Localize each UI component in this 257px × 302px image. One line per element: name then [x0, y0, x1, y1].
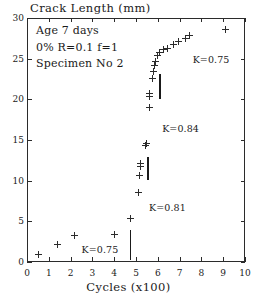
x-tick-label: 0 [17, 268, 37, 278]
x-tick [92, 257, 93, 262]
k-value-label: K=0.81 [149, 202, 186, 213]
y-tick [27, 140, 32, 141]
data-point-marker [54, 241, 61, 248]
y-tick-label: 25 [2, 54, 24, 64]
data-point-marker [149, 75, 156, 82]
y-tick-right [241, 221, 245, 222]
y-tick-label: 5 [2, 216, 24, 226]
x-tick-label: 6 [148, 268, 168, 278]
data-point-marker [35, 251, 42, 258]
data-point-marker [127, 215, 134, 222]
annotation-line-conditions: 0% R=0.1 f=1 [36, 40, 124, 57]
x-tick [158, 257, 159, 262]
x-tick [201, 257, 202, 262]
x-tick-label: 5 [126, 268, 146, 278]
y-tick [27, 262, 32, 263]
data-point-marker [136, 172, 143, 179]
x-tick [245, 257, 246, 262]
k-value-label: K=0.75 [193, 54, 230, 65]
vertical-marker-bar [159, 74, 160, 98]
y-tick [27, 221, 32, 222]
y-tick [27, 181, 32, 182]
x-tick [71, 257, 72, 262]
y-tick-label: 30 [2, 13, 24, 23]
x-tick-top [245, 18, 246, 22]
x-tick-label: 1 [39, 268, 59, 278]
k-value-label: K=0.84 [162, 123, 199, 134]
data-point-marker [146, 90, 153, 97]
x-tick-label: 9 [213, 268, 233, 278]
k-value-label: K=0.75 [82, 244, 119, 255]
y-tick [27, 99, 32, 100]
x-tick-label: 7 [170, 268, 190, 278]
x-tick-top [92, 18, 93, 22]
chart-figure: Crack Length (mm) K=0.75K=0.81K=0.84K=0.… [0, 0, 257, 302]
annotation-line-specimen: Specimen No 2 [36, 56, 124, 73]
y-tick-label: 10 [2, 176, 24, 186]
y-tick-right [241, 99, 245, 100]
y-tick-right [241, 18, 245, 19]
y-tick-label: 0 [2, 257, 24, 267]
y-tick [27, 59, 32, 60]
y-tick-right [241, 140, 245, 141]
x-axis-label: Cycles (x100) [0, 280, 257, 294]
x-tick-top [201, 18, 202, 22]
y-tick-right [241, 59, 245, 60]
y-tick-label: 15 [2, 135, 24, 145]
data-point-marker [111, 231, 118, 238]
x-tick-top [158, 18, 159, 22]
x-tick-top [49, 18, 50, 22]
x-tick-top [71, 18, 72, 22]
x-tick-top [223, 18, 224, 22]
x-tick-label: 8 [191, 268, 211, 278]
data-point-marker [146, 104, 153, 111]
chart-title: Crack Length (mm) [30, 1, 151, 15]
data-point-marker [135, 189, 142, 196]
vertical-marker-bar [130, 230, 131, 260]
data-point-marker [71, 232, 78, 239]
x-tick [223, 257, 224, 262]
x-tick-top [136, 18, 137, 22]
y-tick [27, 18, 32, 19]
x-tick [180, 257, 181, 262]
x-tick-top [114, 18, 115, 22]
x-tick-label: 4 [104, 268, 124, 278]
data-point-marker [143, 140, 150, 147]
annotation-block: Age 7 days 0% R=0.1 f=1 Specimen No 2 [36, 23, 124, 73]
data-point-marker [222, 26, 229, 33]
data-point-marker [137, 160, 144, 167]
vertical-marker-bar [147, 157, 148, 180]
data-point-marker [186, 32, 193, 39]
x-tick-top [180, 18, 181, 22]
x-tick [114, 257, 115, 262]
x-tick [136, 257, 137, 262]
plot-area: K=0.75K=0.81K=0.84K=0.75 Age 7 days 0% R… [27, 18, 245, 262]
y-tick-right [241, 262, 245, 263]
x-tick-label: 3 [82, 268, 102, 278]
x-tick [49, 257, 50, 262]
annotation-line-age: Age 7 days [36, 23, 124, 40]
y-tick-right [241, 181, 245, 182]
x-tick-label: 2 [61, 268, 81, 278]
y-tick-label: 20 [2, 94, 24, 104]
x-tick-label: 10 [235, 268, 255, 278]
